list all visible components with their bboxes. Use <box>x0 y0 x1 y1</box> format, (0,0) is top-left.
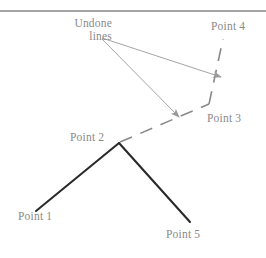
label-point-1: Point 1 <box>18 210 52 223</box>
solid-line-point2-point5 <box>119 143 190 222</box>
label-point-5: Point 5 <box>166 228 200 241</box>
label-point-2: Point 2 <box>70 131 104 144</box>
annotation-label-line2: lines <box>62 30 112 43</box>
dashed-line-point2-point3 <box>120 104 209 142</box>
solid-line-point1-point2 <box>36 143 119 211</box>
label-point-3: Point 3 <box>207 112 241 125</box>
annotation-label-line1: Undone <box>74 17 112 29</box>
annotation-label-undone-lines: Undonelines <box>62 17 112 43</box>
undone-lines-figure: Undonelines Point 4 Point 3 Point 2 Poin… <box>0 0 266 258</box>
label-point-4: Point 4 <box>211 20 245 33</box>
dashed-line-point3-point4 <box>209 39 223 104</box>
